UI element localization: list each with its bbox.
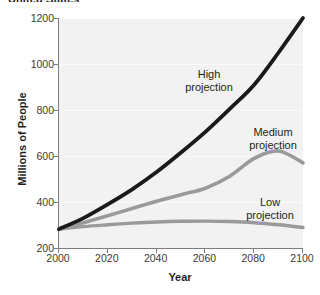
high-projection-annotation: High projection: [178, 68, 240, 93]
x-axis-tick-mark: [107, 249, 108, 253]
low-projection-curve: [59, 221, 303, 229]
y-axis-title: Millions of People: [16, 79, 28, 199]
x-axis-tick-label: 2100: [290, 252, 313, 264]
y-axis-tick-label: 1000: [2, 58, 54, 70]
x-axis-tick-labels: 200020202040206020802100: [58, 252, 302, 266]
x-axis-tick-label: 2000: [46, 252, 69, 264]
y-axis-tick-label: 1200: [2, 12, 54, 24]
y-axis-tick-mark: [54, 18, 58, 19]
y-axis-tick-mark: [54, 110, 58, 111]
x-axis-tick-label: 2020: [95, 252, 118, 264]
y-axis-tick-mark: [54, 156, 58, 157]
x-axis-tick-label: 2040: [144, 252, 167, 264]
high-projection-annotation-line2: projection: [178, 81, 240, 94]
low-projection-annotation-line2: projection: [239, 209, 301, 222]
x-axis-tick-label: 2060: [193, 252, 216, 264]
y-axis-tick-label: 600: [2, 150, 54, 162]
high-projection-annotation-line1: High: [178, 68, 240, 81]
y-axis-tick-label: 800: [2, 104, 54, 116]
chart-title: United States: [8, 0, 80, 2]
low-projection-annotation-line1: Low: [239, 196, 301, 209]
medium-projection-annotation-line1: Medium: [236, 126, 310, 139]
y-axis-tick-mark: [54, 202, 58, 203]
x-axis-tick-mark: [204, 249, 205, 253]
medium-projection-annotation: Medium projection: [236, 126, 310, 151]
x-axis-title: Year: [58, 271, 302, 283]
y-axis-tick-label: 400: [2, 196, 54, 208]
medium-projection-annotation-line2: projection: [236, 139, 310, 152]
y-axis-tick-mark: [54, 64, 58, 65]
low-projection-annotation: Low projection: [239, 196, 301, 221]
x-axis-tick-mark: [156, 249, 157, 253]
x-axis-tick-mark: [302, 249, 303, 253]
x-axis-tick-label: 2080: [242, 252, 265, 264]
x-axis-tick-mark: [58, 249, 59, 253]
x-axis-tick-mark: [253, 249, 254, 253]
